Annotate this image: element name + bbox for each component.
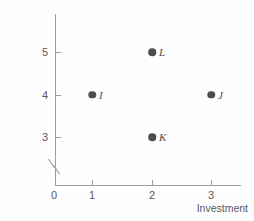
- y-tick-label-5: 5: [42, 47, 48, 58]
- x-tick-label-1: 1: [89, 190, 95, 201]
- x-tick-2: [152, 180, 153, 185]
- y-tick-3: [56, 137, 61, 138]
- y-tick-label-3: 3: [42, 132, 48, 143]
- data-point-label-J: J: [218, 89, 223, 101]
- x-tick-label-3: 3: [208, 190, 214, 201]
- x-axis-line: [55, 185, 241, 186]
- x-tick-0: [55, 180, 56, 185]
- y-tick-label-4: 4: [42, 89, 48, 100]
- data-point-I: [88, 91, 96, 99]
- data-point-label-I: I: [99, 89, 103, 101]
- y-axis-break-icon: [47, 158, 64, 180]
- y-tick-5: [56, 52, 61, 53]
- data-point-label-K: K: [159, 131, 166, 143]
- x-tick-label-0: 0: [51, 190, 57, 201]
- data-point-J: [207, 91, 215, 99]
- x-tick-1: [92, 180, 93, 185]
- data-point-K: [148, 133, 156, 141]
- scatter-chart: 0 1 2 3 3 4 5 Investment Real interest r…: [0, 0, 254, 221]
- data-point-L: [148, 48, 156, 56]
- data-point-label-L: L: [159, 46, 165, 58]
- x-tick-label-2: 2: [149, 190, 155, 201]
- y-tick-4: [56, 95, 61, 96]
- x-tick-3: [211, 180, 212, 185]
- x-axis-title: Investment: [197, 202, 248, 214]
